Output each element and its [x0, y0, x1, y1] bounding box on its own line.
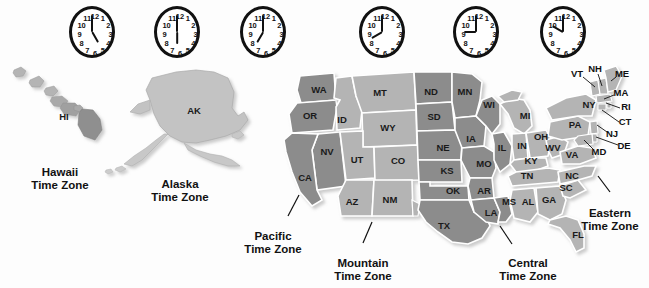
state-label-oh: OH [534, 132, 548, 142]
time-zone-map-figure: 1212345678910111212345678910111212345678… [0, 0, 649, 288]
clock-numeral: 8 [164, 41, 168, 49]
state-label-mn: MN [458, 87, 473, 97]
zone-label-line2: Time Zone [499, 270, 556, 283]
clock-numeral: 8 [79, 41, 83, 49]
clock-numeral: 5 [485, 47, 489, 55]
state-label-mo: MO [476, 159, 491, 169]
zone-label-line2: Time Zone [334, 270, 391, 283]
clock-numeral: 4 [277, 41, 281, 49]
state-label-nd: ND [424, 87, 438, 97]
state-label-wy: WY [380, 123, 395, 133]
clock-dial: 121234567891011 [72, 9, 112, 55]
state-label-nm: NM [383, 195, 398, 205]
clock-numeral: 11 [554, 15, 562, 23]
clock-numeral: 4 [396, 41, 400, 49]
clock-numeral: 4 [191, 41, 195, 49]
state-label-ky: KY [524, 156, 537, 166]
clock-dial: 121234567891011 [157, 9, 197, 55]
clock-numeral: 5 [186, 47, 190, 55]
zone-label-hawaii: HawaiiTime Zone [31, 166, 88, 192]
state-label-co: CO [391, 156, 405, 166]
state-label-wa: WA [311, 85, 326, 95]
state-label-ut: UT [351, 155, 364, 165]
zone-label-line1: Alaska [151, 178, 208, 191]
zone-label-alaska: AlaskaTime Zone [151, 178, 208, 204]
clock-numeral: 9 [248, 31, 252, 39]
state-label-al: AL [522, 197, 535, 207]
clock-numeral: 9 [548, 31, 552, 39]
clock-numeral: 3 [108, 31, 112, 39]
central-leader-line [500, 226, 512, 244]
zone-label-line2: Time Zone [244, 243, 301, 256]
zone-label-line1: Mountain [334, 257, 391, 270]
state-label-ma: MA [614, 88, 629, 98]
clock-minute-hand [262, 15, 264, 32]
clock-numeral: 3 [398, 31, 402, 39]
clock-hour-hand [464, 31, 476, 33]
clock-numeral: 5 [391, 47, 395, 55]
clock-numeral: 6 [477, 50, 481, 58]
pacific-leader-line [288, 195, 299, 216]
clock-numeral: 4 [577, 41, 581, 49]
eastern-clock: 121234567891011 [540, 6, 586, 58]
clock-minute-hand [475, 15, 477, 32]
clock-numeral: 3 [492, 31, 496, 39]
clock-numeral: 5 [572, 47, 576, 55]
clock-numeral: 6 [93, 50, 97, 58]
clock-numeral: 11 [254, 15, 262, 23]
clock-hour-hand [371, 31, 382, 39]
zone-label-line2: Time Zone [31, 179, 88, 192]
state-label-vt: VT [571, 69, 583, 79]
clock-numeral: 3 [279, 31, 283, 39]
clock-numeral: 5 [101, 47, 105, 55]
clock-numeral: 11 [83, 15, 91, 23]
clock-numeral: 2 [396, 22, 400, 30]
zone-label-pacific: PacificTime Zone [244, 230, 301, 256]
central-clock: 121234567891011 [453, 6, 499, 58]
clock-minute-hand [562, 15, 564, 32]
pacific-clock: 121234567891011 [240, 6, 286, 58]
clock-hour-hand [256, 31, 264, 42]
eastern-leader-line [598, 176, 610, 192]
zone-label-line2: Time Zone [151, 191, 208, 204]
state-label-sd: SD [427, 112, 440, 122]
clock-numeral: 7 [469, 47, 473, 55]
state-label-md: MD [592, 147, 607, 157]
hawaii-clock: 121234567891011 [69, 6, 115, 58]
alaska-landmass [105, 70, 248, 174]
clock-numeral: 9 [77, 31, 81, 39]
clock-numeral: 2 [577, 22, 581, 30]
clock-numeral: 11 [467, 15, 475, 23]
clock-numeral: 11 [373, 15, 381, 23]
clock-dial: 121234567891011 [243, 9, 283, 55]
state-label-ny: NY [582, 100, 595, 110]
state-label-tx: TX [438, 221, 450, 231]
clock-minute-hand [91, 15, 93, 32]
clock-numeral: 1 [485, 15, 489, 23]
state-label-ga: GA [542, 195, 556, 205]
state-label-tn: TN [521, 171, 534, 181]
state-label-mi: MI [520, 111, 531, 121]
mountain-leader-line [363, 222, 372, 243]
state-label-ks: KS [440, 166, 453, 176]
state-label-id: ID [337, 115, 347, 125]
clock-numeral: 5 [272, 47, 276, 55]
state-label-ca: CA [298, 173, 312, 183]
clock-numeral: 6 [264, 50, 268, 58]
state-label-ms: MS [502, 197, 516, 207]
state-label-ak: AK [187, 106, 201, 116]
state-label-az: AZ [346, 197, 359, 207]
clock-numeral: 2 [191, 22, 195, 30]
state-label-wi: WI [483, 100, 495, 110]
clock-dial: 121234567891011 [543, 9, 583, 55]
clock-numeral: 3 [579, 31, 583, 39]
state-label-me: ME [615, 69, 629, 79]
state-label-in: IN [517, 141, 527, 151]
clock-numeral: 6 [178, 50, 182, 58]
clock-numeral: 7 [256, 47, 260, 55]
zone-label-mountain: MountainTime Zone [334, 257, 391, 283]
clock-dial: 121234567891011 [456, 9, 496, 55]
clock-hour-hand [176, 32, 178, 44]
state-label-la: LA [485, 208, 498, 218]
state-label-ar: AR [477, 186, 491, 196]
